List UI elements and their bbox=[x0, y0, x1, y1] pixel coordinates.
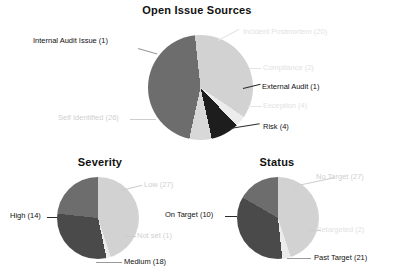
chart-status: Status No Target (27) Retargeted (2) Pas… bbox=[197, 150, 394, 269]
label-not-set: Not set (1) bbox=[137, 232, 172, 240]
leader-exception bbox=[248, 106, 262, 107]
label-medium: Medium (18) bbox=[124, 258, 166, 266]
label-no-target: No Target (27) bbox=[316, 173, 364, 181]
pie-slices-status bbox=[237, 177, 319, 259]
pie-open-issue-sources bbox=[148, 35, 253, 140]
leader-medium bbox=[96, 262, 122, 263]
label-retargeted: Retargeted (2) bbox=[316, 226, 364, 234]
leader-past-target bbox=[287, 258, 311, 259]
label-risk: Risk (4) bbox=[263, 123, 289, 131]
leader-compliance bbox=[249, 68, 261, 69]
label-compliance: Compliance (2) bbox=[263, 64, 314, 72]
label-internal-audit-issue: Internal Audit Issue (1) bbox=[33, 37, 108, 45]
label-exception: Exception (4) bbox=[263, 102, 307, 110]
label-self-identified: Self Identified (26) bbox=[58, 114, 119, 122]
label-external-audit: External Audit (1) bbox=[262, 83, 320, 91]
leader-on-target bbox=[225, 216, 237, 217]
chart-title-severity: Severity bbox=[40, 156, 160, 168]
chart-title-open-issue-sources: Open Issue Sources bbox=[0, 4, 394, 16]
label-on-target: On Target (10) bbox=[165, 211, 213, 219]
pie-status bbox=[237, 177, 319, 259]
chart-title-status: Status bbox=[217, 156, 337, 168]
leader-high bbox=[47, 217, 57, 218]
pie-slices-open-issue-sources bbox=[148, 35, 253, 140]
leader-not-set bbox=[124, 236, 136, 237]
label-past-target: Past Target (21) bbox=[314, 254, 367, 262]
chart-open-issue-sources: Open Issue Sources Incident Postmortem (… bbox=[0, 0, 394, 150]
label-high: High (14) bbox=[10, 212, 41, 220]
label-incident-postmortem: Incident Postmortem (20) bbox=[243, 28, 327, 36]
leader-self-identified bbox=[130, 119, 156, 120]
label-low: Low (27) bbox=[144, 181, 173, 189]
